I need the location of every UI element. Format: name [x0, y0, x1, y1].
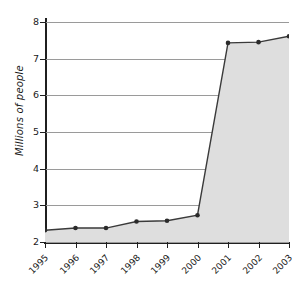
x-axis-tick: [76, 242, 77, 248]
x-axis-tick-label: 2003: [262, 253, 294, 285]
x-axis-tick-label: 1999: [140, 253, 172, 285]
y-axis-tick-label: 2: [25, 237, 39, 247]
data-point-marker: [73, 226, 78, 231]
data-point-marker: [195, 213, 200, 218]
x-axis-tick: [259, 242, 260, 248]
x-axis-tick: [45, 242, 46, 248]
x-axis-tick: [289, 242, 290, 248]
x-axis-tick-label: 1998: [110, 253, 142, 285]
x-axis-tick-label: 2002: [232, 253, 264, 285]
x-axis-tick: [228, 242, 229, 248]
area-fill: [45, 36, 289, 242]
x-axis-tick-label: 1997: [79, 253, 111, 285]
y-axis-tick-label: 7: [25, 54, 39, 64]
data-point-marker: [134, 219, 139, 224]
y-axis-tick-label: 4: [25, 164, 39, 174]
data-series: [45, 22, 289, 242]
x-axis-tick-label: 2000: [171, 253, 203, 285]
x-axis-tick: [106, 242, 107, 248]
x-axis-tick: [198, 242, 199, 248]
y-axis-title: Millions of people: [14, 51, 25, 171]
line-chart: Millions of people 2345678 1995199619971…: [0, 0, 302, 292]
x-axis-tick: [137, 242, 138, 248]
y-axis-tick-label: 3: [25, 200, 39, 210]
x-axis-tick: [167, 242, 168, 248]
y-axis-tick-label: 6: [25, 90, 39, 100]
data-point-marker: [165, 218, 170, 223]
y-axis-tick-label: 8: [25, 17, 39, 27]
data-point-marker: [104, 226, 109, 231]
x-axis-tick-label: 2001: [201, 253, 233, 285]
x-axis-tick-label: 1996: [49, 253, 81, 285]
y-axis-tick-label: 5: [25, 127, 39, 137]
x-axis-tick-label: 1995: [18, 253, 50, 285]
data-point-marker: [256, 40, 261, 45]
data-point-marker: [226, 41, 231, 46]
